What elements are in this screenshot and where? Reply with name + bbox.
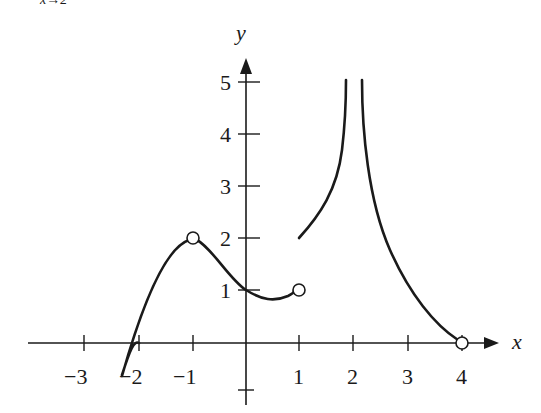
x-tick-label: 2 xyxy=(347,364,358,389)
function-graph: x→2 x y −3 −2 −1 1 2 3 4 1 2 3 4 5 xyxy=(0,0,541,413)
y-tick-label: 3 xyxy=(220,174,231,199)
y-tick-label: 4 xyxy=(220,122,231,147)
clipped-limit-subscript: x→2 xyxy=(39,0,67,7)
curve-piece-2 xyxy=(299,80,346,238)
y-axis-arrow-icon xyxy=(240,58,252,74)
y-ticks xyxy=(238,82,260,290)
open-point-neg1-2 xyxy=(187,232,199,244)
x-axis-label: x xyxy=(511,329,522,354)
x-tick-label: 4 xyxy=(456,364,467,389)
curve-piece-3 xyxy=(362,80,458,340)
x-tick-label: −1 xyxy=(173,364,196,389)
x-axis-arrow-icon xyxy=(484,337,499,349)
y-tick-label: 5 xyxy=(220,70,231,95)
x-tick-label: 1 xyxy=(293,364,304,389)
x-tick-label: −3 xyxy=(64,364,87,389)
y-tick-label: 2 xyxy=(220,226,231,251)
x-tick-label: 3 xyxy=(402,364,413,389)
curves xyxy=(122,80,458,376)
open-point-1-1 xyxy=(293,284,305,296)
y-axis-label: y xyxy=(234,20,246,45)
y-tick-label: 1 xyxy=(220,278,231,303)
open-point-4-0 xyxy=(456,337,468,349)
curve-piece-1 xyxy=(122,240,294,376)
